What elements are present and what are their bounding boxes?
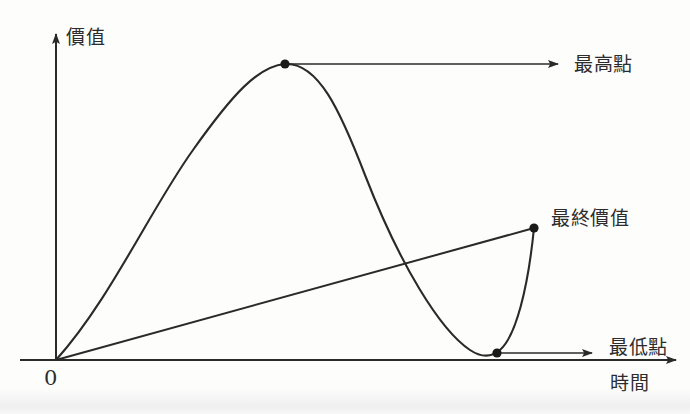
origin-label: 0	[44, 368, 58, 389]
y-axis-label: 價值	[66, 28, 105, 47]
value-curve	[56, 64, 534, 360]
marker-final-value	[529, 223, 538, 232]
trend-line	[56, 228, 534, 360]
peak-label: 最高點	[574, 55, 633, 74]
marker-trough	[492, 348, 501, 357]
final-value-label: 最終價值	[551, 209, 629, 228]
x-axis-label: 時間	[610, 374, 649, 393]
value-over-time-diagram: 價值 時間 0 最高點 最終價值 最低點	[0, 0, 690, 414]
marker-peak	[280, 59, 289, 68]
trough-label: 最低點	[609, 338, 668, 357]
